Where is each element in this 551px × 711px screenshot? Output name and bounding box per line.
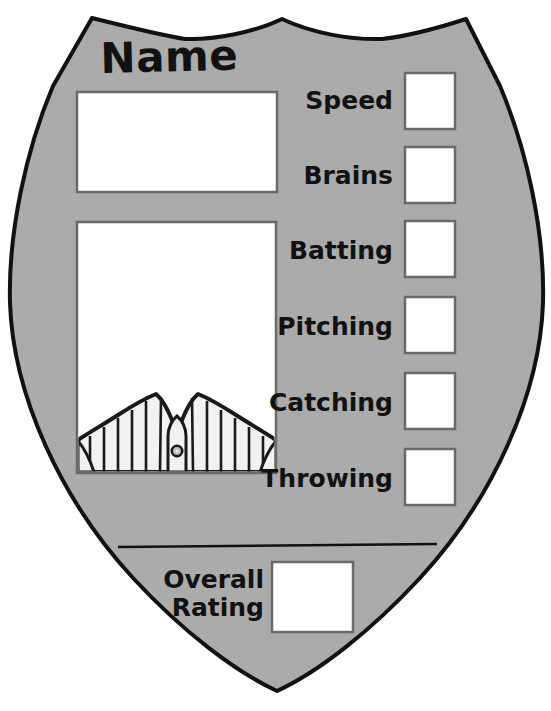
stat-label-speed: Speed [203, 88, 393, 113]
stat-label-catching: Catching [203, 390, 393, 415]
stat-label-pitching: Pitching [203, 314, 393, 339]
stat-box-batting[interactable] [405, 221, 455, 277]
stat-box-pitching[interactable] [405, 297, 455, 353]
overall-rating-label-line1: Overall [80, 566, 264, 594]
stat-box-throwing[interactable] [405, 449, 455, 505]
overall-rating-box[interactable] [272, 562, 353, 632]
overall-rating-label-line2: Rating [80, 594, 264, 622]
stat-box-speed[interactable] [405, 73, 455, 129]
stat-box-brains[interactable] [405, 147, 455, 203]
jersey-placket [168, 416, 186, 472]
stat-label-batting: Batting [203, 238, 393, 263]
stat-label-brains: Brains [203, 163, 393, 188]
stat-label-throwing: Throwing [203, 466, 393, 491]
stat-box-catching[interactable] [405, 373, 455, 429]
page-title: Name [100, 35, 239, 80]
overall-rating-label: Overall Rating [80, 566, 264, 622]
jersey-button-hole [175, 449, 178, 452]
